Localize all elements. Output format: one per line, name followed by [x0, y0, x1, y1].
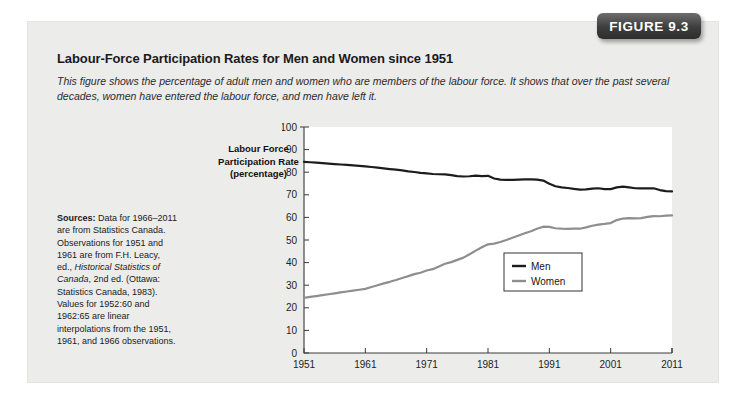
x-tick-label: 1971	[416, 359, 439, 368]
line-chart: 0102030405060708090100 19511961197119811…	[282, 118, 686, 368]
x-tick-label: 1981	[477, 359, 500, 368]
x-tick-label: 1991	[538, 359, 561, 368]
sources-part2: , 2nd ed. (Ottawa: Statistics Canada, 19…	[57, 274, 176, 345]
y-tick-label: 0	[291, 348, 297, 359]
figure-subtitle: This figure shows the percentage of adul…	[57, 74, 679, 104]
y-tick-label: 80	[286, 167, 298, 178]
y-tick-label: 10	[286, 325, 298, 336]
plot-background	[304, 127, 672, 353]
legend-label-men: Men	[531, 261, 550, 272]
x-tick-label: 1961	[354, 359, 377, 368]
y-tick-label: 90	[286, 144, 298, 155]
y-tick-label: 70	[286, 189, 298, 200]
legend-label-women: Women	[531, 276, 565, 287]
x-tick-label: 2001	[600, 359, 623, 368]
x-tick-label: 2011	[661, 359, 683, 368]
chart-svg: 0102030405060708090100 19511961197119811…	[282, 118, 686, 368]
y-tick-label: 60	[286, 212, 298, 223]
figure-number-badge: FIGURE 9.3	[597, 13, 701, 39]
y-tick-label: 30	[286, 280, 298, 291]
y-tick-label: 40	[286, 257, 298, 268]
figure-title: Labour-Force Participation Rates for Men…	[57, 51, 657, 66]
y-tick-label: 100	[282, 122, 297, 133]
y-tick-label: 50	[286, 235, 298, 246]
x-tick-label: 1951	[293, 359, 316, 368]
y-tick-label: 20	[286, 302, 298, 313]
chart-legend: MenWomen	[504, 253, 582, 291]
sources-note: Sources: Data for 1966–2011 are from Sta…	[57, 212, 177, 347]
sources-label: Sources:	[57, 213, 96, 223]
